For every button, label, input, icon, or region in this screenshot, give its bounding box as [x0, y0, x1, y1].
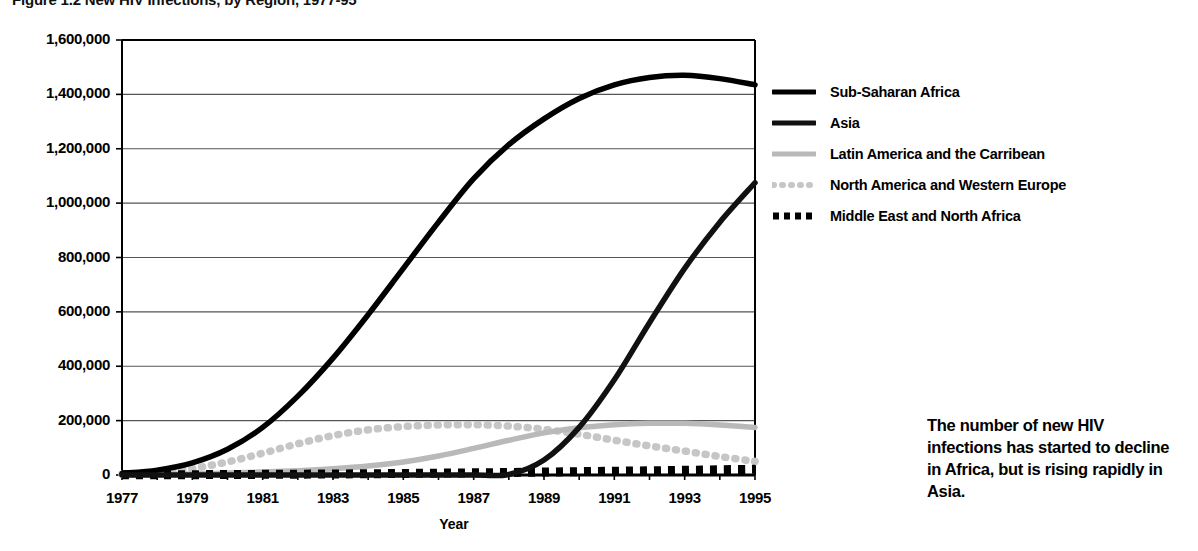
- x-axis-tick-label: 1991: [579, 489, 649, 506]
- x-axis-title: Year: [404, 516, 504, 532]
- x-axis-tick-label: 1987: [439, 489, 509, 506]
- legend-item[interactable]: North America and Western Europe: [772, 169, 1066, 200]
- x-axis-tick-label: 1995: [720, 489, 790, 506]
- y-axis-tick-label: 600,000: [6, 302, 110, 319]
- y-axis-tick-label: 1,600,000: [6, 30, 110, 47]
- legend-item[interactable]: Middle East and North Africa: [772, 200, 1066, 231]
- x-axis-tick-label: 1977: [87, 489, 157, 506]
- legend-item[interactable]: Sub-Saharan Africa: [772, 76, 1066, 107]
- x-axis-tick-label: 1983: [298, 489, 368, 506]
- callout-text: The number of new HIV infections has sta…: [927, 415, 1183, 503]
- legend-label: North America and Western Europe: [830, 177, 1066, 193]
- y-axis-tick-label: 0: [6, 465, 110, 482]
- y-axis-tick-label: 800,000: [6, 248, 110, 265]
- y-axis-tick-label: 1,000,000: [6, 193, 110, 210]
- legend-item[interactable]: Asia: [772, 107, 1066, 138]
- x-axis-tick-label: 1989: [509, 489, 579, 506]
- y-axis-tick-label: 400,000: [6, 356, 110, 373]
- x-axis-tick-label: 1985: [368, 489, 438, 506]
- legend-swatch-icon: [772, 116, 816, 130]
- legend-swatch-icon: [772, 178, 816, 192]
- x-axis-tick-label: 1993: [650, 489, 720, 506]
- legend-swatch-icon: [772, 147, 816, 161]
- y-axis-tick-label: 1,200,000: [6, 139, 110, 156]
- legend-swatch-icon: [772, 209, 816, 223]
- y-axis-tick-label: 1,400,000: [6, 84, 110, 101]
- legend-label: Sub-Saharan Africa: [830, 84, 960, 100]
- y-axis-tick-label: 200,000: [6, 411, 110, 428]
- legend-swatch-icon: [772, 85, 816, 99]
- legend-label: Latin America and the Carribean: [830, 146, 1045, 162]
- x-axis-tick-label: 1979: [157, 489, 227, 506]
- chart-legend: Sub-Saharan AfricaAsiaLatin America and …: [772, 76, 1066, 231]
- x-axis-tick-label: 1981: [228, 489, 298, 506]
- legend-item[interactable]: Latin America and the Carribean: [772, 138, 1066, 169]
- legend-label: Middle East and North Africa: [830, 208, 1021, 224]
- series-line: [122, 75, 755, 473]
- legend-label: Asia: [830, 115, 860, 131]
- series-line: [122, 183, 755, 476]
